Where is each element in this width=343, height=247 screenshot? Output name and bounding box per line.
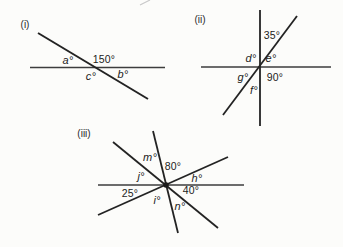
angle-label-90: 90° <box>267 72 283 83</box>
angle-label-f: f° <box>250 85 258 96</box>
angle-label-i: i° <box>153 195 160 206</box>
diagram-iii-lines <box>98 131 244 233</box>
angle-label-40: 40° <box>183 185 199 196</box>
angle-label-d: d° <box>246 53 257 64</box>
diagram-ii-caption: (ii) <box>194 14 205 25</box>
geometry-lines-layer <box>0 0 343 247</box>
angles-worksheet-figure: (i) a° 150° c° b° (ii) 35° d° e° g° 90° … <box>0 0 343 247</box>
diagram-iii-near-vertical-line <box>153 131 178 233</box>
angle-label-h: h° <box>192 173 203 184</box>
diagram-iii-vertex-dot <box>163 182 169 188</box>
angle-label-n: n° <box>175 201 186 212</box>
angle-label-m: m° <box>143 152 157 163</box>
angle-label-150: 150° <box>93 54 116 65</box>
diagram-i-caption: (i) <box>21 19 30 30</box>
angle-label-25: 25° <box>122 188 138 199</box>
angle-label-35: 35° <box>264 30 280 41</box>
angle-label-b: b° <box>118 69 129 80</box>
angle-label-80: 80° <box>165 161 181 172</box>
angle-label-j: j° <box>137 171 144 182</box>
stray-scan-mark <box>140 0 150 5</box>
diagram-iii-shallow-diagonal-line <box>98 157 228 215</box>
angle-label-a: a° <box>63 55 74 66</box>
angle-label-e: e° <box>266 53 277 64</box>
diagram-ii-lines <box>201 10 331 126</box>
diagram-iii-caption: (iii) <box>77 128 90 139</box>
angle-label-g: g° <box>238 72 249 83</box>
angle-label-c: c° <box>86 71 96 82</box>
diagram-i-lines <box>30 33 165 99</box>
diagram-i-transversal-line <box>38 33 148 99</box>
